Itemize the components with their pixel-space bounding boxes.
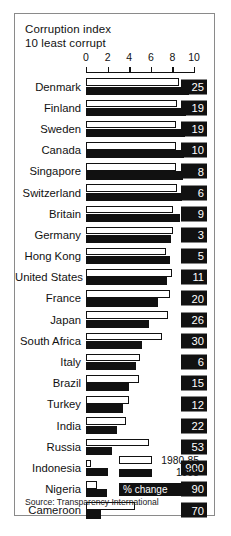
bar-1980-85: [86, 206, 173, 214]
axis-tick-label: 4: [126, 52, 132, 63]
value-badge: 19: [181, 100, 207, 115]
bar-1998: [86, 362, 136, 370]
bar-1980-85: [86, 417, 126, 425]
country-label: Japan: [15, 314, 81, 326]
bar-1998: [86, 447, 112, 455]
country-label: Russia: [15, 441, 81, 453]
chart-row: Turkey12: [15, 394, 214, 415]
chart-title-block: Corruption index 10 least corrupt: [25, 23, 111, 50]
bar-1980-85: [86, 184, 177, 192]
bar-1980-85: [86, 311, 168, 319]
country-label: Brazil: [15, 377, 81, 389]
bar-1998: [86, 87, 189, 95]
bar-1980-85: [86, 354, 140, 362]
value-badge: 10: [181, 143, 207, 158]
axis-tick: [151, 67, 152, 73]
legend-label-old: 1980-85: [153, 455, 199, 467]
axis-tick: [172, 67, 173, 73]
country-label: Finland: [15, 102, 81, 114]
value-badge: 11: [181, 270, 207, 285]
bar-1980-85: [86, 375, 139, 383]
bar-1998: [86, 277, 167, 285]
bar-1980-85: [86, 290, 170, 298]
value-badge: 25: [181, 79, 207, 94]
country-label: Germany: [15, 229, 81, 241]
axis-tick-label: 8: [169, 52, 175, 63]
axis-tick: [108, 67, 109, 73]
chart-row: South Africa30: [15, 330, 214, 351]
bar-1980-85: [86, 481, 97, 489]
source-note: Source: Transparency International: [25, 497, 159, 507]
bar-1980-85: [86, 227, 173, 235]
bar-1980-85: [86, 100, 177, 108]
axis-tick: [86, 67, 87, 73]
country-label: United States: [15, 271, 81, 283]
bar-1980-85: [86, 142, 176, 150]
chart-row: France20: [15, 288, 214, 309]
chart-subtitle: 10 least corrupt: [25, 37, 111, 51]
axis-tick-label: 6: [148, 52, 154, 63]
chart-row: India22: [15, 415, 214, 436]
legend-label-new: 1998: [153, 467, 199, 479]
value-badge: 53: [181, 439, 207, 454]
axis-baseline: [86, 72, 194, 73]
country-label: Turkey: [15, 398, 81, 410]
value-badge: 26: [181, 312, 207, 327]
chart-row: Singapore8: [15, 161, 214, 182]
chart-card: Corruption index 10 least corrupt 024681…: [14, 13, 215, 516]
value-badge: 30: [181, 333, 207, 348]
value-badge: 9: [181, 206, 207, 221]
chart-row: Hong Kong5: [15, 246, 214, 267]
country-label: Britain: [15, 208, 81, 220]
bar-1998: [86, 404, 123, 412]
axis-tick-label: 2: [105, 52, 111, 63]
country-label: France: [15, 292, 81, 304]
x-axis: 0246810: [86, 63, 194, 73]
bar-1998: [86, 150, 184, 158]
country-label: Switzerland: [15, 187, 81, 199]
axis-tick: [194, 67, 195, 73]
chart-row: Denmark25: [15, 76, 214, 97]
country-label: Singapore: [15, 165, 81, 177]
page-title: Corruption index: [25, 23, 111, 37]
bar-1980-85: [86, 121, 176, 129]
country-label: India: [15, 420, 81, 432]
axis-tick: [129, 67, 130, 73]
value-badge: 70: [181, 503, 207, 518]
bar-1998: [86, 426, 117, 434]
bar-1998: [86, 383, 129, 391]
value-badge: 3: [181, 227, 207, 242]
legend-swatch-new-icon: [119, 469, 152, 477]
bar-1998: [86, 510, 101, 518]
value-badge: 12: [181, 397, 207, 412]
legend-swatch-old-icon: [119, 456, 152, 464]
country-label: South Africa: [15, 335, 81, 347]
bar-1998: [86, 298, 158, 306]
bar-1998: [86, 320, 149, 328]
bar-1998: [86, 108, 186, 116]
value-badge: 20: [181, 291, 207, 306]
bar-1998: [86, 256, 170, 264]
bar-1998: [86, 193, 182, 201]
axis-tick-label: 10: [188, 52, 200, 63]
bar-1998: [86, 129, 185, 137]
country-label: Sweden: [15, 123, 81, 135]
country-label: Denmark: [15, 81, 81, 93]
country-label: Hong Kong: [15, 250, 81, 262]
bar-1998: [86, 468, 108, 476]
value-badge: 6: [181, 185, 207, 200]
chart-row: Sweden19: [15, 118, 214, 139]
percent-change-label: % change: [119, 483, 185, 496]
bar-1998: [86, 214, 180, 222]
chart-row: Germany3: [15, 224, 214, 245]
chart-row: Brazil15: [15, 373, 214, 394]
chart-row: Switzerland6: [15, 182, 214, 203]
bar-1980-85: [86, 78, 179, 86]
axis-tick-label: 0: [83, 52, 89, 63]
chart-row: Britain9: [15, 203, 214, 224]
callout-arrow-icon: [185, 486, 194, 494]
chart-row: United States11: [15, 267, 214, 288]
value-badge: 8: [181, 164, 207, 179]
bar-1998: [86, 171, 183, 179]
bar-1980-85: [86, 396, 129, 404]
